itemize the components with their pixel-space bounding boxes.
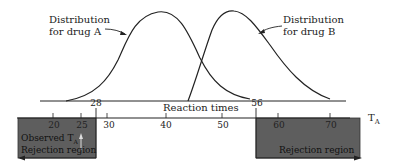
- tick-20: 20: [48, 120, 59, 130]
- right-rejection-label: Rejection region: [279, 145, 354, 156]
- label-drug-a-line2: for drug A: [49, 26, 110, 38]
- left-rejection-label: Rejection region: [21, 145, 96, 156]
- label-a-arrowhead-icon: [120, 31, 127, 35]
- marker-28-label: 28: [90, 98, 101, 108]
- label-drug-a-line1: Distribution: [49, 14, 110, 26]
- label-drug-a: Distribution for drug A: [49, 14, 110, 38]
- label-drug-b-line2: for drug B: [283, 26, 344, 38]
- observed-ta-sub: A: [73, 138, 77, 145]
- label-drug-b-line1: Distribution: [283, 14, 344, 26]
- label-drug-b: Distribution for drug B: [283, 14, 344, 38]
- tick-25: 25: [76, 120, 87, 130]
- tick-50: 50: [217, 120, 228, 130]
- tick-30: 30: [103, 120, 114, 130]
- tick-70: 70: [325, 120, 336, 130]
- ta-axis-label-main: T: [368, 112, 375, 123]
- marker-56-label: 56: [251, 98, 262, 108]
- observed-ta-text: Observed T: [21, 133, 73, 143]
- tick-40: 40: [160, 120, 171, 130]
- tick-60: 60: [273, 120, 284, 130]
- ta-axis-label-sub: A: [375, 118, 380, 126]
- reaction-times-label: Reaction times: [163, 102, 239, 114]
- ta-axis-label: TA: [368, 112, 380, 128]
- diagram-canvas: Distribution for drug A Distribution for…: [0, 0, 414, 167]
